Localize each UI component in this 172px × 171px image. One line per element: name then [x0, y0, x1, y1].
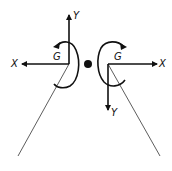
right-rotation-label: G [114, 51, 122, 62]
left-y-label: Y [73, 10, 80, 21]
diagram-canvas: Y X G Y X G [0, 0, 172, 171]
coordinate-frames-diagram: Y X G Y X G [0, 0, 172, 171]
left-rotation-label: G [53, 51, 61, 62]
center-point [84, 60, 92, 68]
left-ray-line [18, 64, 69, 156]
right-y-label: Y [111, 107, 118, 118]
left-rotation-arrowhead [53, 42, 60, 49]
left-frame: Y X G [10, 10, 80, 156]
right-x-label: X [158, 58, 167, 69]
left-rotation-arc [54, 42, 79, 88]
right-rotation-arrowhead [120, 43, 127, 50]
right-frame: Y X G [98, 42, 167, 156]
left-x-label: X [10, 58, 19, 69]
